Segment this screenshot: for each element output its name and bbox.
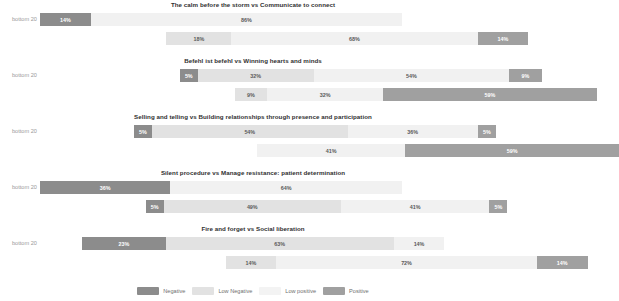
stacked-bar: 23%63%14% — [82, 237, 444, 250]
legend-swatch-neg — [137, 287, 159, 295]
panel-title: Selling and telling vs Building relation… — [0, 113, 506, 120]
bar-segment-lowpos[interactable]: 41% — [257, 144, 405, 157]
bar-segment-pos[interactable]: 59% — [405, 144, 619, 157]
chart-row: top 2041%59% — [0, 144, 506, 157]
bar-segment-neg[interactable]: 5% — [134, 125, 152, 138]
legend-item-pos[interactable]: Positive — [323, 287, 369, 295]
legend-label: Low Negative — [218, 288, 252, 294]
bar-segment-lowneg[interactable]: 49% — [164, 200, 341, 213]
bar-segment-pos[interactable]: 14% — [478, 32, 529, 45]
legend-label: Positive — [349, 288, 369, 294]
chart-row: top 209%32%59% — [0, 88, 506, 101]
stacked-bar: 14%86% — [40, 13, 402, 26]
chart-row: bottom 2014%86% — [0, 13, 506, 26]
stacked-bar: 14%72%14% — [226, 256, 588, 269]
legend-swatch-lowpos — [259, 287, 281, 295]
bar-segment-neg[interactable]: 5% — [180, 69, 198, 82]
bar-segment-lowpos[interactable]: 64% — [170, 181, 402, 194]
panel-rows: bottom 2014%86%top 2018%68%14% — [0, 13, 506, 53]
legend-label: Low positive — [285, 288, 316, 294]
axis-label-bottom-20: bottom 20 — [12, 128, 37, 134]
stacked-bar: 41%59% — [257, 144, 619, 157]
bar-segment-pos[interactable]: 14% — [537, 256, 588, 269]
axis-label-bottom-20: bottom 20 — [12, 184, 37, 190]
bar-segment-lowpos[interactable]: 68% — [231, 32, 477, 45]
bar-segment-lowneg[interactable]: 18% — [166, 32, 231, 45]
chart-panel: Fire and forget vs Social liberationbott… — [0, 224, 506, 280]
panel-title: The calm before the storm vs Communicate… — [0, 1, 506, 8]
bar-segment-lowneg[interactable]: 32% — [198, 69, 314, 82]
chart-panel: The calm before the storm vs Communicate… — [0, 0, 506, 56]
bar-segment-lowpos[interactable]: 54% — [314, 69, 509, 82]
stacked-bar: 5%49%41%5% — [146, 200, 508, 213]
panel-rows: bottom 205%32%54%9%top 209%32%59% — [0, 69, 506, 109]
legend-swatch-pos — [323, 287, 345, 295]
stacked-bar: 9%32%59% — [235, 88, 597, 101]
bar-segment-lowpos[interactable]: 41% — [341, 200, 489, 213]
chart-row: top 2014%72%14% — [0, 256, 506, 269]
bar-segment-pos[interactable]: 5% — [478, 125, 496, 138]
bar-segment-lowneg[interactable]: 63% — [166, 237, 394, 250]
bar-segment-lowpos[interactable]: 86% — [91, 13, 402, 26]
axis-label-bottom-20: bottom 20 — [12, 16, 37, 22]
chart-row: bottom 2023%63%14% — [0, 237, 506, 250]
panel-title: Silent procedure vs Manage resistance: p… — [0, 169, 506, 176]
bar-segment-lowneg[interactable]: 14% — [226, 256, 277, 269]
legend-item-lowpos[interactable]: Low positive — [259, 287, 316, 295]
stacked-bar: 18%68%14% — [166, 32, 528, 45]
axis-label-bottom-20: bottom 20 — [12, 240, 37, 246]
legend-item-neg[interactable]: Negative — [137, 287, 185, 295]
panel-title: Fire and forget vs Social liberation — [0, 225, 506, 232]
legend-label: Negative — [163, 288, 185, 294]
stacked-bar: 36%64% — [40, 181, 402, 194]
chart-panel-list: The calm before the storm vs Communicate… — [0, 0, 506, 280]
bar-segment-lowneg[interactable]: 9% — [235, 88, 268, 101]
chart-row: top 205%49%41%5% — [0, 200, 506, 213]
bar-segment-neg[interactable]: 36% — [40, 181, 170, 194]
stacked-bar: 5%32%54%9% — [180, 69, 542, 82]
bar-segment-pos[interactable]: 5% — [489, 200, 507, 213]
chart-row: top 2018%68%14% — [0, 32, 506, 45]
stacked-bar: 5%54%36%5% — [134, 125, 496, 138]
bar-segment-neg[interactable]: 14% — [40, 13, 91, 26]
chart-panel: Silent procedure vs Manage resistance: p… — [0, 168, 506, 224]
legend-item-lowneg[interactable]: Low Negative — [192, 287, 252, 295]
chart-row: bottom 205%32%54%9% — [0, 69, 506, 82]
bar-segment-lowpos[interactable]: 36% — [348, 125, 478, 138]
bar-segment-neg[interactable]: 5% — [146, 200, 164, 213]
chart-panel: Befehl ist befehl vs Winning hearts and … — [0, 56, 506, 112]
chart-row: bottom 205%54%36%5% — [0, 125, 506, 138]
bar-segment-lowneg[interactable]: 54% — [152, 125, 347, 138]
panel-rows: bottom 205%54%36%5%top 2041%59% — [0, 125, 506, 165]
chart-panel: Selling and telling vs Building relation… — [0, 112, 506, 168]
legend-swatch-lowneg — [192, 287, 214, 295]
chart-row: bottom 2036%64% — [0, 181, 506, 194]
bar-segment-lowpos[interactable]: 32% — [267, 88, 383, 101]
panel-rows: bottom 2036%64%top 205%49%41%5% — [0, 181, 506, 221]
bar-segment-neg[interactable]: 23% — [82, 237, 165, 250]
panel-title: Befehl ist befehl vs Winning hearts and … — [0, 57, 506, 64]
chart-legend: NegativeLow NegativeLow positivePositive — [0, 287, 506, 295]
axis-label-bottom-20: bottom 20 — [12, 72, 37, 78]
bar-segment-pos[interactable]: 9% — [509, 69, 542, 82]
bar-segment-lowpos[interactable]: 72% — [276, 256, 537, 269]
bar-segment-pos[interactable]: 59% — [383, 88, 597, 101]
panel-rows: bottom 2023%63%14%top 2014%72%14% — [0, 237, 506, 277]
bar-segment-lowpos[interactable]: 14% — [394, 237, 445, 250]
